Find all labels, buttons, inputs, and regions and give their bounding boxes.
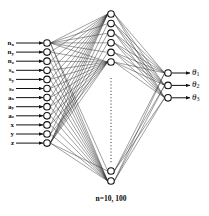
hidden-node <box>108 30 115 37</box>
input-node <box>44 113 51 120</box>
input-label: z <box>11 139 14 147</box>
input-label: sy <box>9 75 15 83</box>
input-node-group <box>44 40 51 147</box>
input-node <box>44 103 51 110</box>
input-node <box>44 131 51 138</box>
input-label-group: nxnynzsxsyszaxayazxyz <box>8 39 15 147</box>
output-label: θ2 <box>192 79 199 89</box>
output-node <box>165 95 172 102</box>
input-label: sx <box>9 66 15 74</box>
input-node <box>44 40 51 47</box>
input-label: ay <box>8 102 15 110</box>
input-arrow-group <box>16 43 43 143</box>
input-label: x <box>11 121 15 129</box>
input-node <box>44 122 51 129</box>
output-label: θ1 <box>192 67 199 77</box>
input-label: az <box>8 111 15 119</box>
edges-input-to-hidden <box>50 14 107 181</box>
input-node <box>44 140 51 147</box>
output-label-group: θ1θ2θ3 <box>192 67 199 102</box>
input-node <box>44 94 51 101</box>
input-node <box>44 49 51 56</box>
input-node <box>44 76 51 83</box>
hidden-node <box>108 178 115 185</box>
neural-network-diagram: nxnynzsxsyszaxayazxyz θ1θ2θ3 n=10, 100 <box>0 0 209 216</box>
hidden-node <box>108 59 115 66</box>
hidden-node <box>108 11 115 18</box>
figure-canvas: nxnynzsxsyszaxayazxyz θ1θ2θ3 n=10, 100 <box>0 0 209 216</box>
input-label: nz <box>8 57 15 65</box>
input-label: y <box>11 130 15 138</box>
figure-caption: n=10, 100 <box>96 194 127 203</box>
input-node <box>44 67 51 74</box>
output-node <box>165 70 172 77</box>
input-node <box>44 58 51 65</box>
hidden-node <box>108 168 115 175</box>
edges-hidden-to-output <box>114 14 164 181</box>
input-node <box>44 85 51 92</box>
hidden-node <box>108 40 115 47</box>
input-label: nx <box>8 39 15 47</box>
output-arrow-group <box>172 73 190 98</box>
output-label: θ3 <box>192 92 199 102</box>
input-label: ax <box>8 93 15 101</box>
output-node-group <box>165 70 172 101</box>
hidden-node <box>108 49 115 56</box>
hidden-node <box>108 20 115 27</box>
input-label: sz <box>9 84 15 92</box>
output-node <box>165 82 172 89</box>
input-label: ny <box>8 48 15 56</box>
